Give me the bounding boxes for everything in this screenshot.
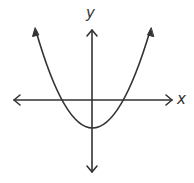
x-axis xyxy=(14,95,172,105)
parabola-curve xyxy=(33,28,154,128)
parabola-graph: y x xyxy=(0,0,194,183)
parabola-right-arrow-icon xyxy=(148,28,154,37)
y-axis xyxy=(87,30,97,172)
graph-canvas xyxy=(0,0,194,183)
y-axis-label: y xyxy=(86,6,95,21)
x-axis-label: x xyxy=(177,92,186,107)
parabola-left-arrow-icon xyxy=(33,28,39,37)
